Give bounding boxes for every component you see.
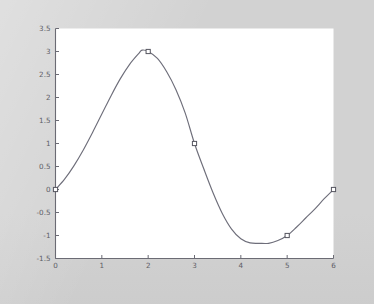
x-tick-label: 2 — [146, 261, 151, 270]
data-point-marker — [331, 187, 335, 191]
screenshot-root: -1.5-1-0.500.511.522.533.5 0123456 — [0, 0, 374, 304]
data-point-marker — [53, 187, 57, 191]
x-tick-label: 0 — [53, 261, 58, 270]
x-tick-label: 3 — [192, 261, 197, 270]
y-tick-label: 0 — [46, 185, 51, 194]
line-chart: -1.5-1-0.500.511.522.533.5 0123456 — [0, 0, 374, 304]
y-tick-label: -0.5 — [36, 208, 50, 217]
x-tick-label: 1 — [100, 261, 105, 270]
y-tick-label: -1.5 — [36, 254, 50, 263]
x-tick-label: 5 — [285, 261, 290, 270]
data-point-marker — [192, 141, 196, 145]
y-tick-label: 0.5 — [39, 162, 50, 171]
x-tick-label: 4 — [239, 261, 244, 270]
y-tick-label: 1.5 — [39, 116, 50, 125]
y-tick-label: 2 — [46, 93, 51, 102]
chart-figure: -1.5-1-0.500.511.522.533.5 0123456 — [0, 0, 374, 304]
x-tick-label: 6 — [331, 261, 336, 270]
y-tick-label: 3 — [46, 47, 51, 56]
y-tick-label: -1 — [43, 231, 50, 240]
y-tick-label: 1 — [46, 139, 51, 148]
y-tick-label: 3.5 — [39, 24, 50, 33]
y-axis: -1.5-1-0.500.511.522.533.5 — [36, 24, 59, 263]
data-point-marker — [146, 49, 150, 53]
data-point-marker — [285, 233, 289, 237]
y-tick-label: 2.5 — [39, 70, 50, 79]
